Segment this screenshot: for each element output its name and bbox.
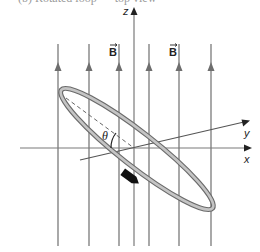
field-label-left: B bbox=[109, 44, 117, 59]
arrow-up-icon bbox=[208, 62, 215, 71]
field-label-right: B bbox=[169, 44, 177, 59]
arrow-up-icon bbox=[176, 62, 183, 71]
b-field-label: B bbox=[109, 46, 117, 58]
arrow-up-icon bbox=[55, 62, 62, 71]
x-axis-arrowhead-icon bbox=[244, 145, 252, 152]
arrow-up-icon bbox=[86, 62, 93, 71]
theta-angle-arc bbox=[111, 133, 116, 148]
b-field-label: B bbox=[169, 46, 177, 58]
z-axis-label: z bbox=[122, 5, 129, 17]
arrow-up-icon bbox=[116, 62, 123, 71]
arrow-up-icon bbox=[146, 62, 153, 71]
y-axis-arrowhead-icon bbox=[242, 120, 251, 127]
theta-label: θ bbox=[102, 129, 108, 143]
y-axis-label: y bbox=[243, 127, 251, 139]
current-loop bbox=[51, 77, 223, 222]
z-axis-arrowhead-icon bbox=[131, 7, 138, 15]
x-axis-label: x bbox=[243, 153, 250, 165]
magnetic-loop-diagram: B B z x y θ bbox=[0, 0, 260, 252]
